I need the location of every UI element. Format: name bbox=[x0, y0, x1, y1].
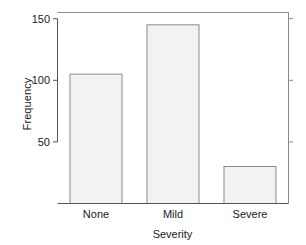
bar bbox=[147, 25, 199, 204]
bar bbox=[70, 74, 122, 203]
y-tick-label: 150 bbox=[24, 13, 50, 25]
bars-group bbox=[70, 25, 276, 204]
x-tick-label: Severe bbox=[233, 208, 268, 220]
y-axis-label: Frequency bbox=[21, 44, 33, 164]
x-axis-label: Severity bbox=[57, 228, 288, 240]
bar bbox=[224, 167, 276, 204]
x-tick-label: None bbox=[83, 208, 109, 220]
x-tick-label: Mild bbox=[163, 208, 183, 220]
bar-chart: 50100150 NoneMildSevere Frequency Severi… bbox=[0, 0, 306, 245]
